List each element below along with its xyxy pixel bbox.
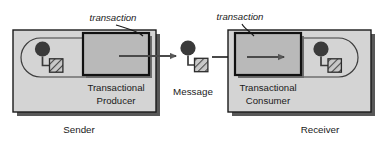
- sender-inner-label-line2: Producer: [97, 95, 137, 106]
- message-icon-stem: [188, 56, 195, 65]
- message-icon-circle: [180, 40, 195, 55]
- message-icon-square: [195, 58, 208, 71]
- receiver-inner-label-line1: Transactional: [239, 82, 296, 93]
- receiver-callout-label: transaction: [217, 11, 264, 22]
- diagram-svg: Transactional Producer Sender transactio…: [0, 0, 388, 150]
- message-label: Message: [173, 86, 213, 97]
- producer-icon-circle: [35, 41, 50, 56]
- producer-icon-square: [50, 59, 63, 72]
- sender-panel[interactable]: Transactional Producer: [13, 30, 160, 116]
- diagram-canvas: Transactional Producer Sender transactio…: [0, 0, 388, 150]
- receiver-transaction-body: [235, 33, 301, 75]
- consumer-icon-square: [328, 59, 341, 72]
- receiver-outer-label: Receiver: [301, 124, 340, 135]
- sender-outer-label: Sender: [63, 124, 95, 135]
- receiver-transaction-box[interactable]: [235, 33, 304, 78]
- sender-callout-label: transaction: [90, 12, 137, 23]
- receiver-inner-label-line2: Consumer: [246, 95, 291, 106]
- sender-transaction-body: [83, 33, 149, 75]
- receiver-panel[interactable]: Transactional Consumer: [228, 30, 375, 116]
- consumer-icon-circle: [313, 41, 328, 56]
- sender-inner-label-line1: Transactional: [87, 82, 144, 93]
- message-icon[interactable]: [180, 40, 208, 71]
